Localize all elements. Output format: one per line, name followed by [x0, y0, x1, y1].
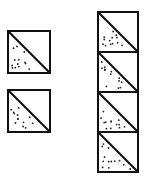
stipple-dot — [25, 127, 27, 129]
quilt-block-diagram — [0, 0, 153, 180]
stipple-dot — [121, 81, 123, 83]
stipple-dot — [115, 34, 117, 36]
stipple-dot — [22, 126, 24, 128]
stipple-dot — [10, 109, 12, 111]
stipple-dot — [108, 147, 110, 149]
strip-block-2 — [98, 52, 138, 92]
stipple-dot — [104, 66, 106, 68]
stipple-dot — [103, 36, 105, 38]
stipple-dot — [13, 47, 15, 49]
stipple-dot — [23, 121, 25, 123]
stipple-dot — [105, 121, 107, 123]
stipple-dot — [114, 160, 116, 162]
right-strip — [98, 12, 138, 172]
stipple-dot — [110, 71, 112, 73]
stipple-dot — [101, 61, 103, 63]
stipple-dot — [15, 122, 17, 124]
stipple-dot — [108, 161, 110, 163]
stipple-dot — [16, 46, 18, 48]
left-block-2 — [8, 90, 50, 132]
stipple-dot — [103, 111, 105, 113]
stipple-dot — [116, 37, 118, 39]
stipple-dot — [118, 124, 120, 126]
stipple-dot — [119, 160, 121, 162]
stipple-dot — [12, 67, 14, 69]
stipple-dot — [112, 43, 114, 45]
stipple-dot — [124, 126, 126, 128]
stipple-dot — [100, 117, 102, 119]
stipple-dot — [109, 40, 111, 42]
stipple-dot — [28, 68, 30, 70]
stipple-dot — [13, 113, 15, 115]
strip-block-1 — [98, 12, 138, 52]
stipple-dot — [104, 69, 106, 71]
stipple-dot — [18, 59, 20, 61]
stipple-dot — [118, 77, 120, 79]
stipple-dot — [17, 118, 19, 120]
stipple-dot — [110, 43, 112, 45]
stipple-dot — [106, 128, 108, 130]
stipple-dot — [111, 37, 113, 39]
stipple-dot — [108, 167, 110, 169]
stipple-dot — [25, 63, 27, 65]
stipple-dot — [32, 122, 34, 124]
stipple-dot — [129, 168, 131, 170]
left-block-1 — [8, 31, 50, 73]
left-blocks — [8, 31, 50, 132]
stipple-dot — [117, 42, 119, 44]
stipple-dot — [23, 51, 25, 53]
stipple-dot — [121, 44, 123, 46]
stipple-dot — [105, 45, 107, 47]
stipple-dot — [14, 67, 16, 69]
stipple-dot — [116, 124, 118, 126]
stipple-dot — [14, 59, 16, 61]
stipple-dot — [102, 43, 104, 45]
stipple-dot — [103, 39, 105, 41]
stipple-dot — [110, 73, 112, 75]
strip-block-4 — [98, 132, 138, 172]
stipple-dot — [103, 143, 105, 145]
stipple-dot — [102, 167, 104, 169]
stipple-dot — [104, 156, 106, 158]
stipple-dot — [120, 87, 122, 89]
stipple-dot — [101, 146, 103, 148]
stipple-dot — [118, 119, 120, 121]
stipple-dot — [17, 63, 19, 65]
stipple-dot — [110, 127, 112, 129]
stipple-dot — [18, 66, 20, 68]
stipple-dot — [119, 127, 121, 129]
stipple-dot — [123, 164, 125, 166]
stipple-dot — [118, 80, 120, 82]
stipple-dot — [110, 121, 112, 123]
stipple-dot — [102, 160, 104, 162]
stipple-dot — [106, 86, 108, 88]
stipple-dot — [11, 65, 13, 67]
stipple-dot — [118, 87, 120, 89]
stipple-dot — [29, 116, 31, 118]
stipple-dot — [110, 161, 112, 163]
stipple-dot — [103, 122, 105, 124]
stipple-dot — [18, 107, 20, 109]
stipple-dot — [17, 114, 19, 116]
stipple-dot — [101, 67, 103, 69]
strip-block-3 — [98, 92, 138, 132]
stipple-dot — [112, 31, 114, 33]
